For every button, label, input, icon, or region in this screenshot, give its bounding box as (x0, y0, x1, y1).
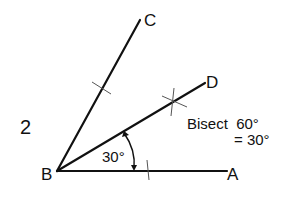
note-line2: = 30° (234, 132, 270, 147)
ray-BC (57, 20, 140, 171)
label-A: A (227, 166, 238, 183)
label-D: D (206, 74, 218, 91)
label-C: C (144, 12, 156, 29)
angle-label: 30° (102, 149, 125, 164)
note-line1: Bisect 60° (187, 116, 259, 131)
angle-arc (124, 133, 134, 169)
ray-BD (57, 83, 205, 171)
label-B: B (41, 166, 52, 183)
figure-number: 2 (20, 117, 31, 137)
